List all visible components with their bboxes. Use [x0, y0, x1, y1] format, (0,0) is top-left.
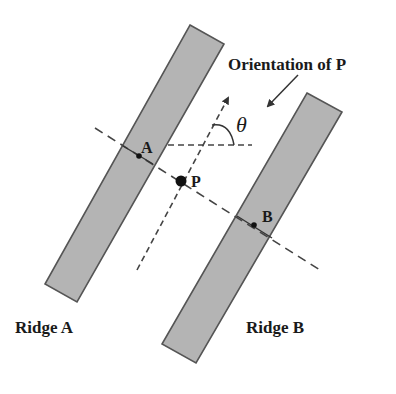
- point-p-label: P: [191, 173, 201, 190]
- point-a-label: A: [141, 139, 153, 156]
- point-b-label: B: [262, 208, 273, 225]
- angle-arc: [212, 125, 234, 145]
- title-pointer-arrow: [268, 75, 298, 106]
- orientation-title-label: Orientation of P: [228, 55, 346, 74]
- point-p-dot: [176, 176, 187, 187]
- point-b-dot: [251, 222, 257, 228]
- ridge-orientation-diagram: A P B θ Orientation of P Ridge A Ridge B: [0, 0, 396, 394]
- ridge-b-label: Ridge B: [246, 318, 304, 337]
- angle-theta-label: θ: [236, 112, 247, 137]
- ridge-a-label: Ridge A: [15, 318, 74, 337]
- ridge-a-shape: [45, 25, 224, 302]
